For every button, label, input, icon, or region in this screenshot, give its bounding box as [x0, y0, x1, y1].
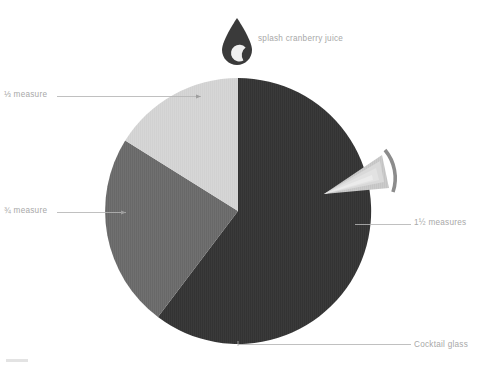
label-one-and-half-measures: 1½ measures — [414, 219, 466, 227]
droplet-icon — [222, 18, 252, 65]
corner-mark — [6, 359, 28, 362]
pie-slices — [105, 78, 371, 344]
label-third-measure: ⅓ measure — [4, 91, 47, 99]
diagram-canvas: splash cranberry juice ⅓ measure ¾ measu… — [0, 0, 484, 370]
label-splash-cranberry-juice: splash cranberry juice — [258, 35, 343, 43]
label-three-quarter-measure: ¾ measure — [4, 207, 47, 215]
pie-diagram-svg — [0, 0, 484, 370]
label-cocktail-glass: Cocktail glass — [414, 341, 468, 349]
